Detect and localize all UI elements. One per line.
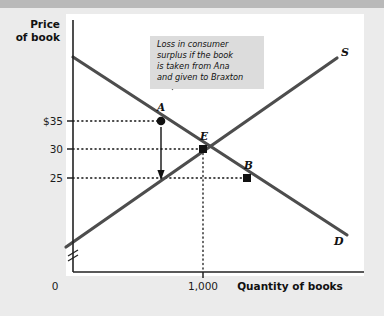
y-tick-label-35: $35 [43,115,63,127]
y-tick-marks [67,121,73,178]
y-tick-label-25: 25 [50,172,63,184]
data-point-a[interactable] [157,117,166,126]
y-axis-title-line1: Price [30,18,60,30]
data-point-b[interactable] [243,174,251,182]
supply-curve-label: S [341,46,349,59]
demand-curve-label: D [333,235,344,248]
data-point-label-e: E [199,130,209,142]
y-axis-title-line2: of book [16,31,61,43]
figure-container: Price of book Quantity of books $35 30 2… [0,0,384,316]
x-tick-label-0: 0 [52,280,59,292]
callout-line-2: surplus if the book [157,50,234,60]
data-point-label-a: A [156,101,165,113]
surplus-loss-arrow [157,127,164,180]
guide-lines [73,121,247,272]
y-tick-label-30: 30 [50,143,63,155]
callout-line-1: Loss in consumer [157,39,229,49]
x-axis-title: Quantity of books [237,280,343,292]
x-tick-label-1000: 1,000 [188,280,218,292]
surplus-loss-callout: Loss in consumer surplus if the book is … [150,36,264,89]
data-point-e[interactable] [199,145,207,153]
callout-line-4: and given to Braxton [157,72,243,82]
data-point-label-b: B [243,159,253,171]
supply-demand-chart: Price of book Quantity of books $35 30 2… [0,0,384,316]
callout-line-3: is taken from Ana [157,61,230,71]
